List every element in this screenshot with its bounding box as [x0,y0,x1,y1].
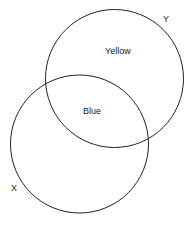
region-yellow-label: Yellow [105,47,131,56]
circle-x [11,75,149,213]
circle-y-label: Y [163,15,169,24]
intersection-blue-label: Blue [83,107,101,116]
circle-x-label: X [11,184,17,193]
circle-y [46,10,184,148]
